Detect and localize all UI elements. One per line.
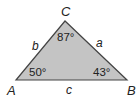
side-label-a: a: [96, 36, 103, 50]
side-label-c: c: [66, 83, 72, 97]
angle-label-a: 50°: [29, 66, 46, 78]
vertex-label-a: A: [6, 83, 16, 98]
side-label-b: b: [32, 39, 39, 53]
vertex-label-b: B: [127, 83, 136, 98]
triangle-diagram: C A B b a c 87° 50° 43°: [0, 0, 140, 102]
angle-label-b: 43°: [93, 66, 110, 78]
angle-label-c: 87°: [57, 31, 74, 43]
vertex-label-c: C: [61, 4, 71, 19]
